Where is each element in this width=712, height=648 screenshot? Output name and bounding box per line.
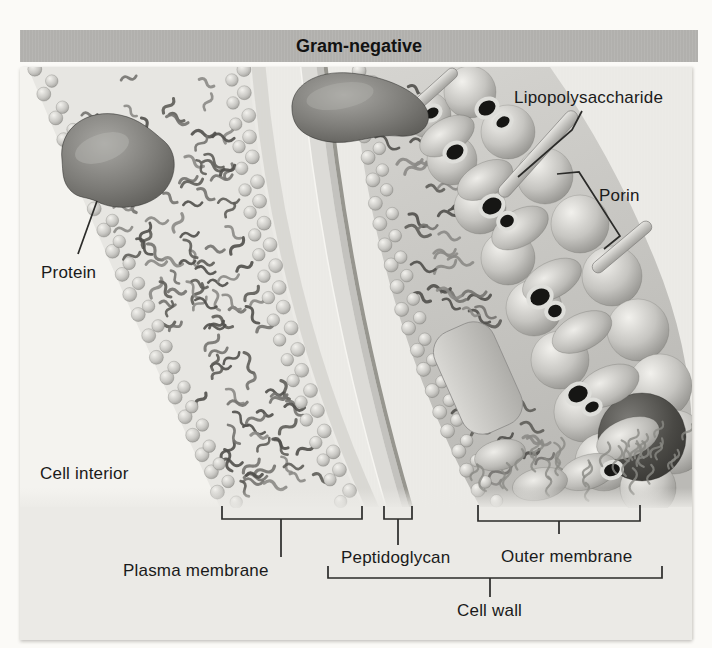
label-peptidoglycan: Peptidoglycan: [341, 548, 450, 568]
label-plasma-membrane: Plasma membrane: [123, 561, 269, 581]
label-lipopolysaccharide: Lipopolysaccharide: [514, 88, 663, 108]
figure-title-banner: Gram-negative: [20, 30, 698, 62]
figure-title: Gram-negative: [296, 36, 422, 56]
label-cell-interior: Cell interior: [40, 464, 129, 484]
label-cell-wall: Cell wall: [457, 601, 522, 621]
label-outer-membrane: Outer membrane: [501, 547, 632, 567]
figure: Gram-negative: [0, 0, 712, 648]
label-porin: Porin: [599, 186, 640, 206]
label-protein: Protein: [41, 263, 96, 283]
